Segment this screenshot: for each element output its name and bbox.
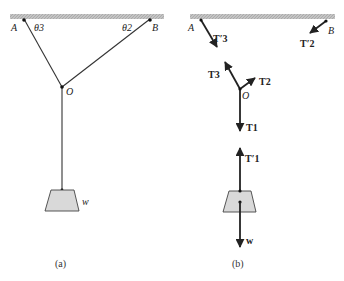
label-o: O [66, 86, 73, 97]
label-t1-prime: T′1 [245, 153, 259, 164]
label-b: B [152, 22, 158, 33]
point-a-dot [22, 18, 26, 22]
weight-top-dot [238, 189, 241, 192]
panel-b: A B O T′3 T′2 T3 T2 T1 T′1 w (b) [187, 14, 335, 270]
ceiling-b [190, 14, 335, 19]
label-t2: T2 [259, 76, 271, 87]
point-b-dot-b [324, 19, 327, 22]
label-b-b: B [328, 25, 334, 36]
cable-bo [62, 19, 150, 87]
panel-a: A B O θ3 θ2 w (a) [10, 14, 164, 270]
label-a-b: A [187, 22, 195, 33]
arrow-t2 [240, 78, 255, 89]
weight-block-a [45, 190, 79, 211]
point-o-dot [60, 85, 64, 89]
label-weight-a: w [82, 196, 89, 207]
label-theta2: θ2 [122, 22, 132, 33]
statics-diagram: A B O θ3 θ2 w (a) A B O T′3 T′2 T3 T2 T [0, 0, 344, 281]
arrow-t2-prime [310, 21, 326, 33]
arrow-t3 [225, 62, 240, 89]
label-t3-prime: T′3 [213, 33, 227, 44]
label-t1: T1 [246, 122, 258, 133]
label-w-b: w [246, 235, 254, 246]
label-t2-prime: T′2 [300, 38, 314, 49]
label-theta3: θ3 [34, 22, 44, 33]
caption-b: (b) [232, 258, 244, 270]
label-o-b: O [242, 90, 249, 101]
label-a: A [10, 22, 18, 33]
caption-a: (a) [55, 258, 66, 270]
label-t3: T3 [208, 69, 220, 80]
ceiling-a [10, 14, 164, 19]
point-a-dot-b [199, 18, 202, 21]
